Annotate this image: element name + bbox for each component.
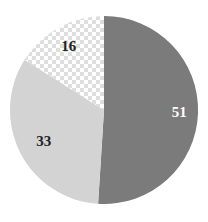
slice-value-label: 33 — [36, 133, 51, 149]
slice-value-label: 16 — [61, 38, 77, 54]
pie-chart: 513316 — [0, 0, 208, 222]
pie-slices — [10, 16, 198, 204]
slice-value-label: 51 — [172, 104, 187, 120]
